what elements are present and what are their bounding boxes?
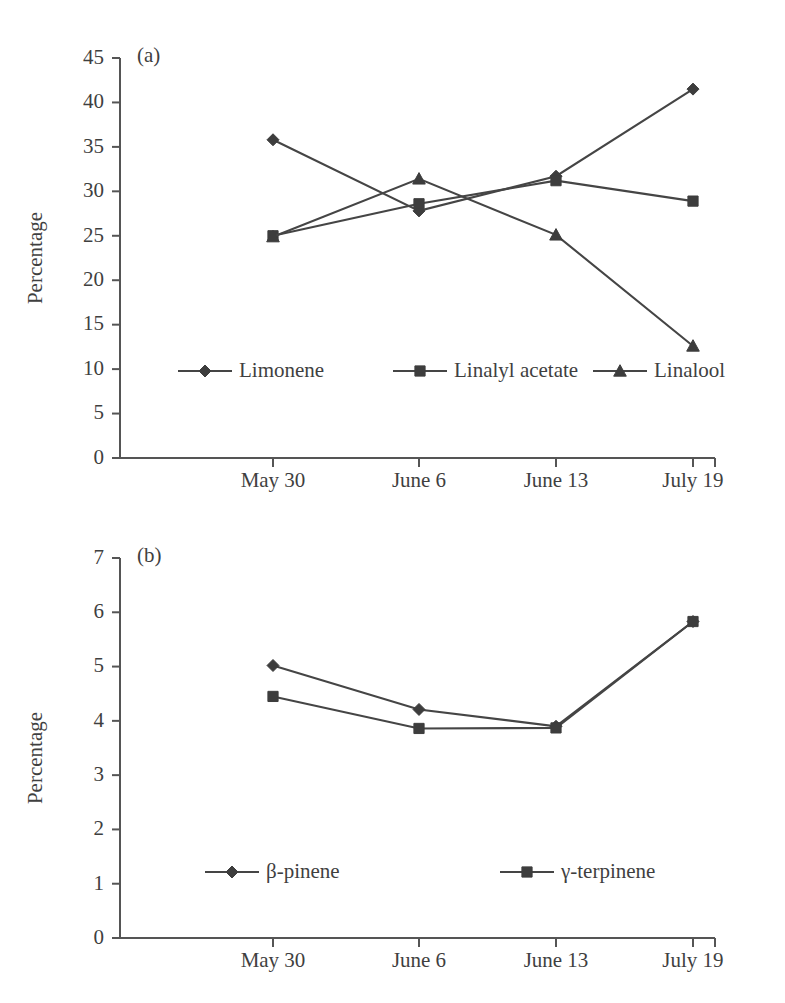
legend-label: Linalool [654,358,725,382]
data-point-marker [550,229,563,240]
legend-marker-square [415,366,425,376]
chart-legend: β-pineneγ-terpinene [205,859,655,883]
panel-label: (a) [137,43,160,67]
data-point-marker [413,703,425,715]
data-point-marker [267,134,279,146]
x-tick-label: July 19 [662,468,723,492]
y-tick-label: 10 [83,356,104,380]
legend-label: γ-terpinene [560,859,655,883]
data-point-marker [688,196,698,206]
y-tick-label: 2 [94,816,105,840]
chart-a-svg: 051015202530354045May 30June 6June 13Jul… [0,0,785,505]
legend-marker-diamond [199,365,211,377]
y-axis-title: Percentage [23,712,47,804]
data-point-marker [551,723,561,733]
y-tick-label: 20 [83,267,104,291]
x-tick-label: May 30 [241,948,306,972]
y-tick-label: 1 [94,871,105,895]
y-tick-label: 5 [94,653,105,677]
x-tick-label: July 19 [662,948,723,972]
chart-panel-b: 01234567May 30June 6June 13July 19Percen… [0,500,785,1003]
y-tick-label: 3 [94,762,105,786]
data-point-marker [414,199,424,209]
x-tick-label: June 6 [392,468,446,492]
y-tick-label: 45 [83,45,104,69]
y-tick-label: 7 [94,545,105,569]
chart-panel-a: 051015202530354045May 30June 6June 13Jul… [0,0,785,505]
data-point-marker [267,659,279,671]
y-axis-title: Percentage [23,212,47,304]
legend-label: Linalyl acetate [454,358,578,382]
legend-marker-diamond [226,866,238,878]
y-tick-label: 40 [83,89,104,113]
panel-label: (b) [137,543,162,567]
series-line-linalyl-acetate [273,181,693,236]
series-line-terpinene [273,622,693,729]
y-tick-label: 15 [83,311,104,335]
y-tick-label: 35 [83,134,104,158]
data-point-marker [414,723,424,733]
x-tick-label: May 30 [241,468,306,492]
legend-marker-square [522,867,532,877]
chart-b-svg: 01234567May 30June 6June 13July 19Percen… [0,500,785,1003]
data-point-marker [551,176,561,186]
chart-legend: LimoneneLinalyl acetateLinalool [178,358,725,382]
data-point-marker [688,616,698,626]
y-tick-label: 5 [94,400,105,424]
x-tick-label: June 13 [524,468,589,492]
data-point-marker [413,173,426,184]
series-line-linalool [273,179,693,346]
x-tick-label: June 13 [524,948,589,972]
y-tick-label: 0 [94,925,105,949]
y-tick-label: 0 [94,445,105,469]
data-point-marker [268,691,278,701]
y-tick-label: 4 [94,708,105,732]
y-tick-label: 30 [83,178,104,202]
legend-label: Limonene [239,358,324,382]
legend-label: β-pinene [266,859,340,883]
y-tick-label: 6 [94,599,105,623]
y-tick-label: 25 [83,223,104,247]
data-point-marker [687,83,699,95]
x-tick-label: June 6 [392,948,446,972]
figure-container: 051015202530354045May 30June 6June 13Jul… [0,0,785,1003]
